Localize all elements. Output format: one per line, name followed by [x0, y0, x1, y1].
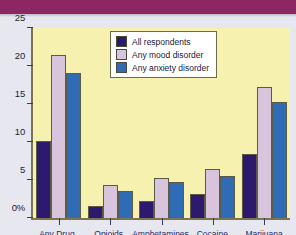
bar-group [33, 28, 84, 218]
y-axis-label: 15 [15, 88, 25, 99]
legend-label: Any mood disorder [132, 50, 203, 60]
x-axis-label: Amphetamines [132, 229, 189, 235]
bar-group [239, 28, 290, 218]
legend-item: Any mood disorder [116, 49, 209, 60]
legend-label: Any anxiety disorder [132, 63, 209, 73]
bar-2 [220, 176, 235, 218]
legend-swatch-icon [116, 36, 127, 47]
bar-0 [242, 154, 257, 218]
x-axis-label: Opioids [94, 229, 123, 235]
bar-1 [51, 55, 66, 218]
bar-0 [190, 194, 205, 218]
bar-2 [169, 182, 184, 218]
y-axis-label: 25 [15, 12, 25, 23]
x-axis-tick [110, 218, 111, 225]
legend-item: All respondents [116, 36, 209, 47]
x-axis-tick [264, 218, 265, 225]
y-axis-label: 5 [20, 164, 25, 175]
x-axis-label: Any Drug [39, 229, 74, 235]
bar-0 [36, 141, 51, 218]
bar-1 [154, 178, 169, 218]
chart-page: 0%510152025 All respondentsAny mood diso… [0, 0, 296, 235]
y-axis-label: 20 [15, 50, 25, 61]
y-axis-label: 10 [15, 126, 25, 137]
bar-0 [139, 201, 154, 218]
legend-swatch-icon [116, 49, 127, 60]
x-axis-label: Cocaine [197, 229, 228, 235]
bar-1 [205, 169, 220, 218]
x-axis-tick [162, 218, 163, 225]
bar-2 [66, 73, 81, 218]
legend-swatch-icon [116, 62, 127, 73]
legend-item: Any anxiety disorder [116, 62, 209, 73]
chart-legend: All respondentsAny mood disorderAny anxi… [110, 31, 217, 78]
bar-1 [257, 87, 272, 218]
bar-0 [88, 206, 103, 218]
y-axis-label: 0% [12, 202, 25, 213]
bar-2 [118, 191, 133, 218]
bar-chart: 0%510152025 All respondentsAny mood diso… [0, 17, 296, 235]
bar-1 [103, 185, 118, 218]
bar-2 [272, 102, 287, 218]
top-banner [0, 0, 296, 14]
x-axis-tick [59, 218, 60, 225]
x-axis-tick [213, 218, 214, 225]
x-axis-label: Marijuana [245, 229, 282, 235]
legend-label: All respondents [132, 37, 191, 47]
